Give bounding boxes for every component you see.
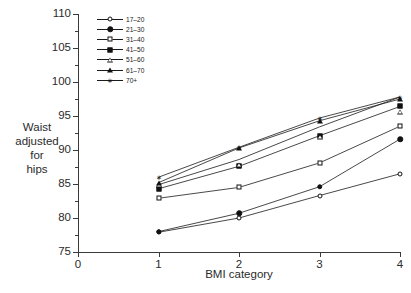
- legend-label: 31–40: [126, 36, 144, 43]
- legend-label: 61–70: [126, 67, 144, 74]
- data-point: [156, 180, 162, 185]
- legend-item[interactable]: 17–20: [97, 14, 144, 24]
- data-point: [317, 134, 323, 139]
- legend-marker-glyph: [107, 27, 113, 33]
- x-tick-label: 1: [155, 258, 161, 270]
- legend-label: 70+: [126, 77, 137, 84]
- x-tick-label: 2: [236, 258, 242, 270]
- y-tick-label: 75: [58, 246, 71, 258]
- data-point: [397, 136, 403, 142]
- x-tick: [239, 252, 240, 257]
- legend-marker-glyph: ∗: [107, 78, 113, 83]
- x-tick-label: 0: [75, 258, 81, 270]
- legend-item[interactable]: 31–40: [97, 34, 144, 44]
- legend-marker-glyph: [108, 37, 113, 42]
- series-line: [159, 97, 401, 185]
- data-point: [317, 184, 323, 190]
- legend-key: [97, 45, 123, 55]
- legend-key: [97, 24, 123, 34]
- y-tick-label: 80: [58, 212, 71, 224]
- y-tick-label: 90: [58, 144, 71, 156]
- x-tick: [159, 252, 160, 257]
- data-point: [398, 104, 403, 109]
- y-tick-label: 110: [53, 8, 71, 20]
- legend-key: [97, 34, 123, 44]
- series-line: [159, 106, 401, 188]
- y-tick-label: 105: [52, 42, 71, 54]
- legend: 17–2021–3031–4041–5051–6061–70∗70+: [97, 14, 144, 85]
- legend-label: 21–30: [126, 26, 144, 33]
- data-point: ∗: [236, 145, 242, 150]
- y-axis-title-line: Waist: [4, 120, 70, 134]
- legend-marker-glyph: [107, 57, 113, 62]
- legend-label: 41–50: [126, 46, 144, 53]
- legend-label: 17–20: [126, 16, 144, 23]
- legend-key: [97, 55, 123, 65]
- x-tick: [78, 252, 79, 257]
- data-point: [317, 160, 322, 165]
- x-tick-label: 3: [316, 258, 322, 270]
- legend-item[interactable]: 41–50: [97, 45, 144, 55]
- y-tick-label: 85: [58, 178, 71, 190]
- data-point: [397, 109, 403, 114]
- data-point: [398, 171, 403, 176]
- legend-item[interactable]: 61–70: [97, 65, 144, 75]
- data-point: [398, 124, 403, 129]
- data-point: [156, 196, 161, 201]
- x-tick: [320, 252, 321, 257]
- legend-key: ∗: [97, 75, 123, 85]
- data-point: ∗: [317, 116, 323, 121]
- series-line: [159, 139, 401, 231]
- data-point: [237, 216, 242, 221]
- y-axis-title-line: hips: [4, 162, 70, 176]
- legend-key: [97, 65, 123, 75]
- legend-marker-glyph: [107, 68, 113, 73]
- legend-item[interactable]: ∗70+: [97, 75, 144, 85]
- legend-marker-glyph: [108, 17, 113, 22]
- data-point: [236, 210, 242, 216]
- series-line: [159, 99, 401, 183]
- y-tick-label: 100: [52, 76, 71, 88]
- data-point: [156, 229, 162, 235]
- series-line: [159, 126, 401, 198]
- data-point: ∗: [156, 175, 162, 180]
- x-tick-label: 4: [397, 258, 403, 270]
- legend-key: [97, 14, 123, 24]
- x-tick: [400, 252, 401, 257]
- legend-label: 51–60: [126, 56, 144, 63]
- y-tick-label: 95: [58, 110, 71, 122]
- legend-item[interactable]: 21–30: [97, 24, 144, 34]
- data-point: ∗: [397, 94, 403, 99]
- data-point: [236, 162, 242, 167]
- legend-marker-glyph: [108, 47, 113, 52]
- chart-figure: Waist adjusted for hips BMI category 758…: [0, 0, 411, 293]
- legend-item[interactable]: 51–60: [97, 55, 144, 65]
- data-point: [317, 193, 322, 198]
- data-point: [237, 185, 242, 190]
